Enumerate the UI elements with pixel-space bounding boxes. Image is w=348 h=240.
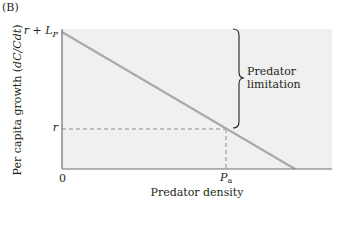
annotation-line-2: limitation	[247, 78, 301, 91]
x-tick-a-subscript: a	[227, 176, 232, 185]
y-tick-r-plus-l-text: r + L	[24, 24, 53, 37]
x-axis-label: Predator density	[150, 186, 243, 199]
y-tick-p-subscript: P	[53, 30, 58, 39]
y-tick-r-plus-lp: r + LP	[24, 24, 58, 39]
x-tick-pa: Pa	[220, 171, 232, 185]
annotation-line-1: Predator	[247, 65, 301, 78]
predator-limitation-annotation: Predator limitation	[247, 65, 301, 91]
x-tick-zero: 0	[59, 172, 66, 185]
y-tick-r: r	[53, 121, 58, 134]
brace-icon	[233, 29, 244, 128]
y-axis-label: Per capita growth (dC/Cdt)	[11, 25, 24, 176]
growth-line	[62, 32, 295, 169]
y-axis-label-prefix: Per capita growth (	[11, 68, 24, 176]
y-axis-label-formula: dC/Cdt	[11, 29, 24, 68]
y-axis-label-suffix: )	[11, 25, 24, 29]
